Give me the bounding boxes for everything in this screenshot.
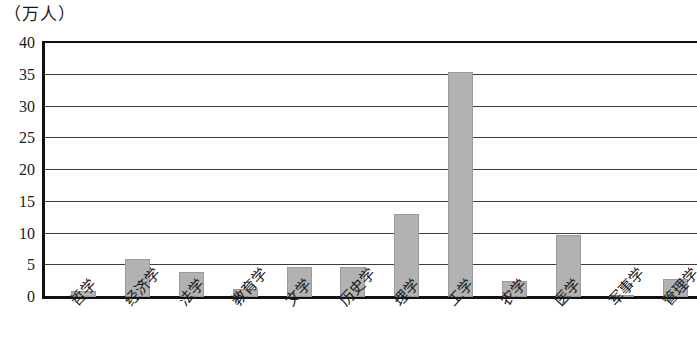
bar-series [42,43,697,297]
y-tick-label-40: 40 [19,35,35,51]
y-axis-labels: 0510152025303540 [0,0,42,351]
y-tick-label-5: 5 [27,257,35,273]
y-tick-label-25: 25 [19,130,35,146]
y-tick-label-0: 0 [27,289,35,305]
bar [448,72,473,297]
y-tick-label-10: 10 [19,226,35,242]
y-tick-label-15: 15 [19,194,35,210]
y-tick-label-30: 30 [19,99,35,115]
y-tick-label-20: 20 [19,162,35,178]
y-tick-label-35: 35 [19,67,35,83]
bar-chart: （万人） 0510152025303540 哲学经济学法学教育学文学历史学理学工… [0,0,697,351]
plot-area [42,43,697,297]
x-axis-labels: 哲学经济学法学教育学文学历史学理学工学农学医学军事学管理学 [42,299,697,351]
